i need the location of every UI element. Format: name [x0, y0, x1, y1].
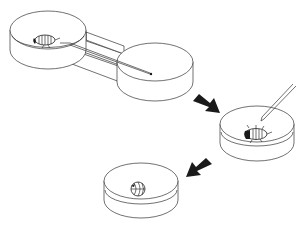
- right-chamber: [117, 43, 193, 101]
- diagram-description: Three-step procedure: an isopod in a two…: [0, 0, 1, 1]
- two-chamber-dish: [10, 11, 193, 101]
- result-dish: [104, 163, 178, 218]
- isopod-rolled-ball: [131, 182, 145, 196]
- arrow-step1-to-step2: [193, 94, 220, 113]
- arrow-step2-to-step3: [186, 158, 212, 177]
- stimulus-dish: [220, 84, 296, 161]
- procedure-diagram: Three-step procedure: an isopod in a two…: [0, 0, 302, 229]
